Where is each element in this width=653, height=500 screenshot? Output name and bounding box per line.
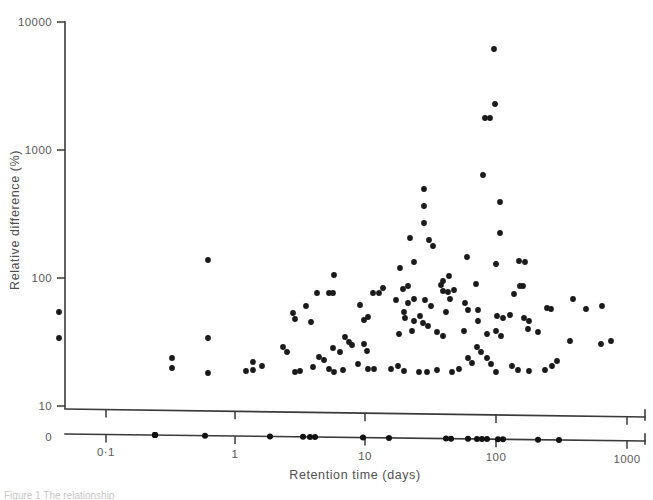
rug-point [267,433,273,439]
data-point [465,355,471,361]
data-point [308,319,314,325]
data-point [292,316,298,322]
data-point [516,258,522,264]
data-point [498,333,504,339]
data-point [520,283,526,289]
data-point [355,361,361,367]
rug-point [386,435,392,441]
figure-caption: Figure 1 The relationship [4,491,304,500]
data-point [371,366,377,372]
data-point [487,115,493,121]
data-point [469,360,475,366]
data-point [526,318,532,324]
x-axis-zero-baseline: 0 [45,431,645,449]
data-point [411,296,417,302]
data-point [250,359,256,365]
data-point [535,329,541,335]
data-point [310,364,316,370]
x-tick-label: 1000 [613,453,640,465]
y-tick-label: 10 [38,400,52,412]
data-point [598,341,604,347]
data-point [342,334,348,340]
data-point [370,290,376,296]
data-point [259,363,265,369]
data-point [456,366,462,372]
x-axis-upper [65,409,645,425]
rug-point [448,436,454,442]
data-point [507,312,513,318]
x-axis-tick-labels: 0·11101001000 [97,446,641,464]
rug-point [556,437,562,443]
x-tick-label: 10 [358,450,372,462]
data-point [397,265,403,271]
scatter-plot: 10100100010000 Relative difference (%) 0… [0,0,653,500]
x-tick-label: 0·1 [97,446,115,458]
data-point [407,235,413,241]
data-point [409,328,415,334]
data-point [493,261,499,267]
data-point [567,338,573,344]
data-point [411,259,417,265]
x-tick-label: 1 [232,448,239,460]
data-point [464,254,470,260]
data-point [484,355,490,361]
data-point [480,172,486,178]
data-point [395,363,401,369]
data-point [303,303,309,309]
data-point [365,366,371,372]
data-point [446,273,452,279]
zero-axis-label: 0 [45,431,52,443]
data-point [402,315,408,321]
data-point [542,367,548,373]
data-point [411,318,417,324]
data-point [290,310,296,316]
data-point [330,345,336,351]
data-point [357,302,363,308]
rug-point [300,434,306,440]
data-point [515,367,521,373]
data-point [492,101,498,107]
rug-point [152,432,158,438]
data-point [511,291,517,297]
data-point [56,335,62,341]
data-point [425,323,431,329]
x-axis-lower-ticks [106,434,627,448]
data-point [205,257,211,263]
data-point [608,338,614,344]
data-point [393,297,399,303]
rug-point [535,437,541,443]
data-point [599,303,605,309]
data-point [205,335,211,341]
data-point [497,199,503,205]
data-point [417,313,423,319]
rug-point [312,434,318,440]
data-point [421,186,427,192]
data-point [330,290,336,296]
data-point [424,369,430,375]
data-point [482,115,488,121]
data-point [474,344,480,350]
data-point [205,370,211,376]
data-point [401,368,407,374]
data-point [364,348,370,354]
data-point [426,237,432,243]
y-tick-label: 100 [32,272,52,284]
data-point [549,363,555,369]
data-point [422,297,428,303]
data-point [484,331,490,337]
data-point [500,315,506,321]
rug-point [484,436,490,442]
data-point [475,318,481,324]
data-point [405,300,411,306]
data-point [396,331,402,337]
y-tick-label: 1000 [25,144,52,156]
data-point [583,306,589,312]
data-point [497,230,503,236]
data-point [465,307,471,313]
data-point [169,355,175,361]
data-point [361,317,367,323]
data-point [525,326,531,332]
data-point-group [56,46,614,376]
rug-point [500,436,506,442]
data-point [280,344,286,350]
